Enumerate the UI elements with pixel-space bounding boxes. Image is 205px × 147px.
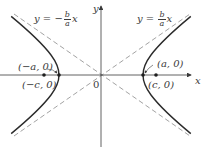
left-vertex-label: (−a, 0) (18, 62, 53, 72)
left-focus-label: (−c, 0) (22, 80, 57, 90)
hyperbola-diagram: y = −bax y = bax y x 0 (−a, 0) (−c, 0) (… (0, 0, 205, 147)
diagram-canvas (0, 0, 205, 147)
asymptote-label-positive: y = bax (137, 11, 172, 28)
right-vertex-pointer (145, 65, 153, 73)
right-vertex-point (141, 73, 145, 77)
left-focus-point (42, 73, 46, 77)
left-vertex-point (57, 73, 61, 77)
origin-label: 0 (93, 80, 99, 90)
right-focus-label: (c, 0) (148, 80, 174, 90)
right-vertex-label: (a, 0) (157, 59, 183, 69)
right-focus-point (154, 73, 158, 77)
asymptote-label-negative: y = −bax (34, 11, 78, 28)
y-axis-label: y (93, 4, 99, 14)
x-axis-label: x (195, 76, 201, 86)
